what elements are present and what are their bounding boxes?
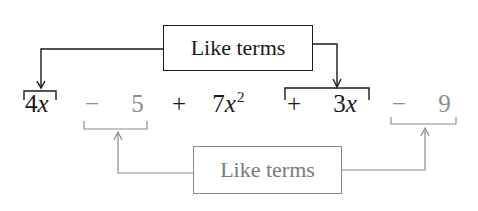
term-minus-5: − 5	[85, 89, 144, 119]
exponent: 2	[237, 89, 245, 105]
coef: 5	[131, 90, 144, 117]
term-minus-9: − 9	[392, 89, 451, 119]
like-terms-bottom-text: Like terms	[220, 157, 315, 183]
sign: +	[287, 90, 301, 117]
variable: x	[225, 90, 236, 117]
variable: x	[38, 90, 49, 117]
coef: 7	[212, 90, 225, 117]
bottom-left-connector	[118, 134, 193, 173]
like-terms-top-text: Like terms	[191, 35, 286, 61]
sign: +	[172, 90, 186, 117]
like-terms-top-label: Like terms	[163, 25, 313, 71]
coef: 3	[333, 90, 346, 117]
coef: 9	[438, 90, 451, 117]
bracket-minus-5	[84, 121, 147, 129]
term-4x: 4x	[25, 89, 49, 119]
sign: −	[85, 90, 99, 117]
like-terms-bottom-label: Like terms	[193, 146, 342, 194]
term-plus-3x: + 3x	[287, 89, 357, 119]
coef: 4	[25, 90, 38, 117]
sign: −	[392, 90, 406, 117]
variable: x	[346, 90, 357, 117]
top-left-connector	[41, 49, 163, 87]
bottom-right-connector	[342, 130, 425, 170]
term-plus-7x2: + 7x2	[172, 89, 244, 122]
